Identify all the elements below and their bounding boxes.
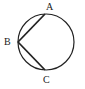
circle	[18, 14, 74, 70]
circle-diagram: A B C	[0, 0, 85, 89]
point-label-b: B	[4, 36, 11, 47]
point-label-c: C	[43, 74, 50, 85]
point-label-a: A	[46, 1, 54, 12]
